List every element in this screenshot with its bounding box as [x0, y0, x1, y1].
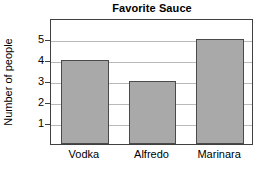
y-axis-tick-mark [45, 103, 50, 104]
y-axis-tick-mark [45, 40, 50, 41]
plot-area [50, 19, 253, 145]
bar-chart-figure: Favorite Sauce Number of people 12345 Vo… [0, 0, 274, 171]
bar-marinara [196, 39, 243, 144]
bar-series [51, 20, 252, 144]
x-axis-tick-label: Alfredo [118, 148, 186, 161]
bar-alfredo [129, 81, 176, 144]
y-axis-tick-mark [45, 61, 50, 62]
y-axis-tick-label: 3 [20, 76, 44, 87]
y-axis-tick-label: 4 [20, 55, 44, 66]
y-axis-tick-labels: 12345 [18, 0, 44, 171]
y-axis-tick-label: 1 [20, 118, 44, 129]
y-axis-tick-mark [45, 82, 50, 83]
y-axis-title-container: Number of people [0, 19, 16, 145]
y-axis-tick-label: 5 [20, 34, 44, 45]
y-axis-tick-label: 2 [20, 97, 44, 108]
y-axis-title: Number of people [2, 38, 14, 125]
bar-vodka [61, 60, 108, 144]
x-axis-tick-labels: VodkaAlfredoMarinara [50, 148, 253, 164]
y-axis-tick-mark [45, 124, 50, 125]
x-axis-tick-label: Vodka [50, 148, 118, 161]
chart-title: Favorite Sauce [50, 1, 254, 15]
x-axis-tick-label: Marinara [185, 148, 253, 161]
